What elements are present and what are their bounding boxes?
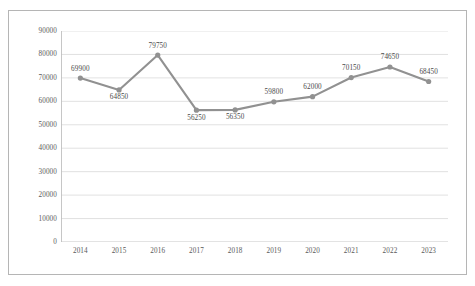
data-point-marker: [310, 94, 315, 99]
data-point-marker: [155, 52, 160, 57]
data-point-marker: [78, 76, 83, 81]
data-point-marker: [194, 108, 199, 113]
x-tick-label: 2021: [344, 247, 359, 255]
x-tick-label: 2023: [421, 247, 436, 255]
data-point-marker: [426, 79, 431, 84]
data-point-label: 69900: [71, 65, 89, 73]
y-tick-label: 60000: [39, 97, 57, 105]
gridlines: [61, 31, 448, 242]
data-point-marker: [349, 75, 354, 80]
y-tick-label: 20000: [39, 191, 57, 199]
y-tick-label: 70000: [39, 74, 57, 82]
data-point-markers: [78, 52, 432, 112]
y-tick-label: 50000: [39, 121, 57, 129]
x-tick-label: 2019: [266, 247, 281, 255]
data-point-label: 79750: [149, 42, 167, 50]
x-axis-tick-labels: 2014201520162017201820192020202120222023: [61, 245, 448, 259]
data-point-label: 70150: [342, 64, 360, 72]
y-tick-label: 40000: [39, 144, 57, 152]
y-tick-label: 30000: [39, 168, 57, 176]
data-point-marker: [387, 64, 392, 69]
data-point-label: 68450: [419, 68, 437, 76]
data-point-marker: [116, 87, 121, 92]
data-point-marker: [271, 99, 276, 104]
data-point-label: 56350: [226, 113, 244, 121]
data-series-line: [80, 55, 428, 110]
x-tick-label: 2014: [73, 247, 88, 255]
data-point-label: 74650: [381, 53, 399, 61]
plot-area: [61, 31, 448, 242]
y-tick-label: 10000: [39, 215, 57, 223]
data-point-label: 64850: [110, 93, 128, 101]
data-point-label: 56250: [187, 114, 205, 122]
y-tick-label: 90000: [39, 27, 57, 35]
x-tick-label: 2020: [305, 247, 320, 255]
line-chart-svg: [61, 31, 448, 242]
x-tick-label: 2015: [112, 247, 127, 255]
x-tick-label: 2018: [228, 247, 243, 255]
top-blank-strip: [0, 0, 475, 9]
data-point-marker: [233, 107, 238, 112]
y-tick-label: 0: [53, 238, 57, 246]
y-axis-tick-labels: 0100002000030000400005000060000700008000…: [17, 31, 57, 242]
x-tick-label: 2022: [383, 247, 398, 255]
y-tick-label: 80000: [39, 50, 57, 58]
data-point-label: 59800: [265, 88, 283, 96]
x-tick-label: 2016: [150, 247, 165, 255]
data-point-label: 62000: [303, 83, 321, 91]
chart-frame: 0100002000030000400005000060000700008000…: [8, 10, 467, 275]
chart-screenshot: 0100002000030000400005000060000700008000…: [0, 0, 475, 286]
x-tick-label: 2017: [189, 247, 204, 255]
